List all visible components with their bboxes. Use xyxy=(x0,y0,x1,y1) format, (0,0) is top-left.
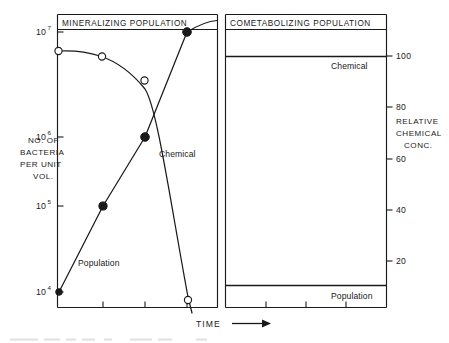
right-panel-title: COMETABOLIZING POPULATION xyxy=(230,19,371,28)
left-chemical-marker-4 xyxy=(184,296,191,303)
caption-fragment-6 xyxy=(130,339,152,341)
left-ytick-label-1e7-base: 10 xyxy=(36,27,46,37)
caption-fragment-4 xyxy=(82,339,95,341)
left-axis-title-line-3: PER UNIT xyxy=(20,160,62,169)
x-axis-title-group: TIME xyxy=(196,319,271,329)
left-ytick-label-1e4: 10 4 xyxy=(36,284,52,297)
left-population-series-label: Population xyxy=(78,258,120,268)
left-chemical-curve xyxy=(58,51,192,313)
left-axis-title-line-4: VOL. xyxy=(33,172,53,181)
caption-fragment-3 xyxy=(66,339,76,341)
right-chemical-series-label: Chemical xyxy=(331,61,368,71)
left-axis-title-line-2: BACTERIA xyxy=(20,148,65,157)
left-population-marker-4 xyxy=(183,28,192,37)
left-ytick-label-1e4-base: 10 xyxy=(36,287,46,297)
caption-fragment-2 xyxy=(44,339,60,341)
figure-container: MINERALIZING POPULATION 10 7 10 6 10 5 1… xyxy=(0,0,449,343)
right-axis-title-line-3: CONC. xyxy=(404,141,433,150)
right-panel: COMETABOLIZING POPULATION 100 80 60 40 2… xyxy=(226,15,412,308)
left-ytick-label-1e5: 10 5 xyxy=(36,198,52,211)
left-ytick-label-1e5-exp: 5 xyxy=(48,198,52,205)
figure-caption-strip xyxy=(10,339,207,341)
left-panel-title: MINERALIZING POPULATION xyxy=(62,19,187,28)
right-axis-title: RELATIVE CHEMICAL CONC. xyxy=(396,117,442,150)
left-ytick-label-1e5-base: 10 xyxy=(36,201,46,211)
right-population-series-label: Population xyxy=(331,291,373,301)
caption-fragment-8 xyxy=(196,339,207,341)
left-panel: MINERALIZING POPULATION 10 7 10 6 10 5 1… xyxy=(36,15,218,314)
right-ytick-label-100: 100 xyxy=(396,51,411,61)
right-ytick-label-60: 60 xyxy=(396,154,406,164)
left-ytick-label-1e7-exp: 7 xyxy=(48,24,52,31)
caption-fragment-5 xyxy=(104,339,112,341)
left-ytick-label-1e6-exp: 6 xyxy=(48,129,52,136)
right-axis-title-line-1: RELATIVE xyxy=(396,117,439,126)
left-chemical-marker-1 xyxy=(55,47,62,54)
right-ytick-label-20: 20 xyxy=(396,256,406,266)
right-axis-title-line-2: CHEMICAL xyxy=(396,129,442,138)
caption-fragment-7 xyxy=(158,339,172,341)
right-ytick-label-40: 40 xyxy=(396,205,406,215)
left-ytick-label-1e4-exp: 4 xyxy=(48,284,52,291)
x-axis-title: TIME xyxy=(196,319,221,329)
left-axis-title-line-1: NO. OF xyxy=(28,136,59,145)
left-ytick-label-1e7: 10 7 xyxy=(36,24,52,37)
left-chemical-marker-3 xyxy=(141,77,148,84)
left-population-marker-2 xyxy=(99,202,107,210)
left-population-marker-1 xyxy=(56,289,63,296)
scientific-figure: MINERALIZING POPULATION 10 7 10 6 10 5 1… xyxy=(0,0,449,343)
caption-fragment-1 xyxy=(10,339,38,341)
left-population-marker-3 xyxy=(141,133,150,142)
right-ytick-label-80: 80 xyxy=(396,102,406,112)
time-arrow-head xyxy=(262,320,271,328)
left-chemical-marker-2 xyxy=(98,53,105,60)
left-chemical-series-label: Chemical xyxy=(159,149,196,159)
